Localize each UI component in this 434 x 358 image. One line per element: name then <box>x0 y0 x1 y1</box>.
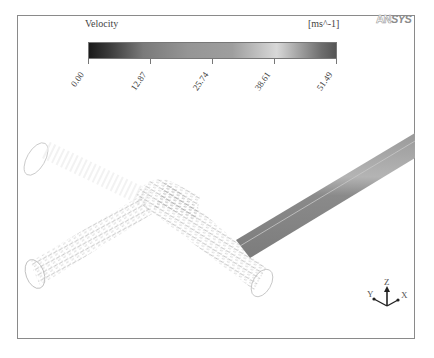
axis-z-label: Z <box>384 277 390 287</box>
upper-inlet-outline <box>19 139 150 200</box>
pipe-velocity-scene: Z Y X <box>18 16 415 338</box>
axis-x-label: X <box>401 290 408 300</box>
axis-triad: Z Y X <box>367 277 408 306</box>
axis-y-label: Y <box>367 289 374 299</box>
left-pipe-leg <box>21 196 152 291</box>
outlet-pipe <box>236 133 415 258</box>
